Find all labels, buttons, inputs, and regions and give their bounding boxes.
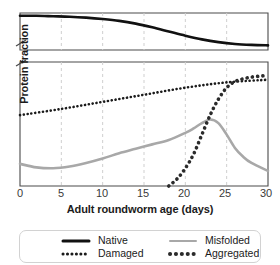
series-line-aggregated [169, 75, 268, 186]
series-line-damaged [20, 80, 268, 115]
legend-label-damaged: Damaged [98, 247, 144, 259]
x-tick-30: 30 [254, 187, 278, 199]
x-tick-20: 20 [172, 187, 196, 199]
legend-swatch-native [61, 236, 91, 246]
x-tick-25: 25 [213, 187, 237, 199]
x-tick-10: 10 [90, 187, 114, 199]
series-line-misfolded [20, 120, 268, 171]
legend-label-native: Native [98, 234, 128, 246]
legend-label-aggregated: Aggregated [205, 247, 259, 259]
legend-swatch-damaged [61, 249, 91, 259]
x-tick-0: 0 [8, 187, 32, 199]
chart-plot-area [0, 0, 280, 210]
y-axis-label: Protein fraction [18, 0, 30, 134]
legend-swatch-aggregated [168, 249, 198, 259]
protein-fraction-chart: Protein fraction Adult roundworm age (da… [0, 0, 280, 265]
chart-legend: Native Damaged Misfolded Aggregated [19, 230, 261, 263]
legend-label-misfolded: Misfolded [205, 234, 250, 246]
legend-swatch-misfolded [168, 236, 198, 246]
x-tick-5: 5 [49, 187, 73, 199]
x-axis-label: Adult roundworm age (days) [0, 203, 280, 215]
x-tick-15: 15 [131, 187, 155, 199]
